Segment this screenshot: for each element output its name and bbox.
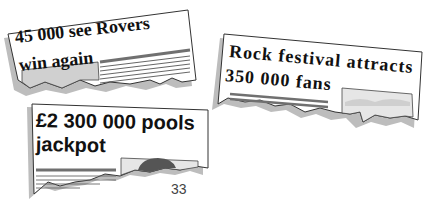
newspaper-clipping-rovers: 45 000 see Rovers win again	[0, 0, 210, 100]
clipping-paper-icon	[0, 0, 210, 100]
headline-line-1: £2 300 000 pools	[36, 110, 195, 133]
page-number: 33	[171, 181, 187, 197]
newspaper-clipping-pools-jackpot: £2 300 000 pools jackpot	[20, 100, 220, 200]
headline-line-2: jackpot	[36, 134, 106, 155]
newspaper-clipping-rock-festival: Rock festival attracts 350 000 fans	[210, 20, 425, 130]
